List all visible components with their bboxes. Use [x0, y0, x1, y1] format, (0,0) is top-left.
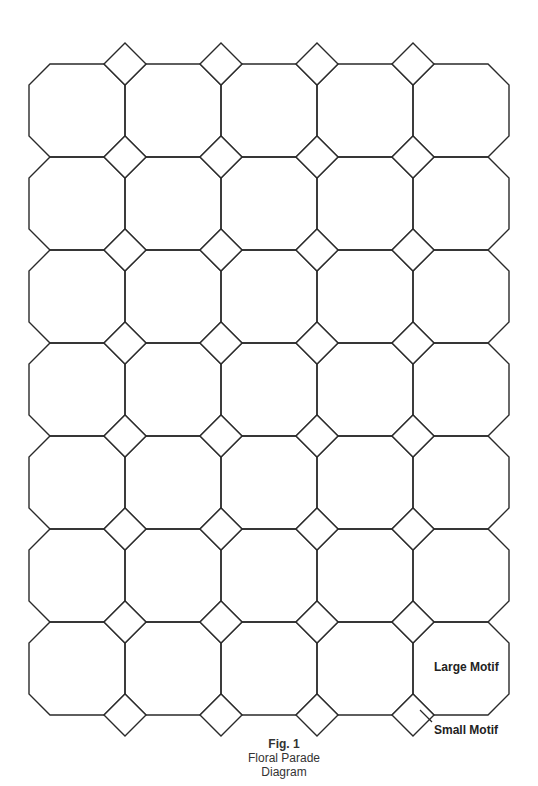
large-motif-octagon — [221, 343, 317, 436]
figure-title-line2: Diagram — [229, 765, 339, 779]
small-motif-diamond — [104, 694, 146, 736]
small-motif-diamond — [392, 694, 434, 736]
large-motif-grid — [29, 64, 509, 715]
small-motif-diamond — [200, 229, 242, 271]
large-motif-octagon — [413, 436, 509, 529]
small-motif-diamond — [104, 136, 146, 178]
large-motif-octagon — [29, 343, 125, 436]
small-motif-diamond — [104, 601, 146, 643]
large-motif-octagon — [29, 157, 125, 250]
small-motif-grid — [104, 43, 434, 736]
small-motif-diamond — [392, 43, 434, 85]
small-motif-diamond — [296, 43, 338, 85]
small-motif-diamond — [296, 322, 338, 364]
large-motif-octagon — [413, 64, 509, 157]
large-motif-octagon — [125, 64, 221, 157]
large-motif-octagon — [221, 529, 317, 622]
small-motif-diamond — [200, 415, 242, 457]
large-motif-octagon — [317, 343, 413, 436]
large-motif-octagon — [413, 157, 509, 250]
small-motif-diamond — [296, 229, 338, 271]
small-motif-diamond — [392, 322, 434, 364]
small-motif-diamond — [104, 322, 146, 364]
small-motif-diamond — [104, 43, 146, 85]
large-motif-octagon — [317, 622, 413, 715]
small-motif-diamond — [104, 508, 146, 550]
large-motif-octagon — [413, 343, 509, 436]
large-motif-octagon — [413, 529, 509, 622]
large-motif-octagon — [317, 64, 413, 157]
large-motif-octagon — [125, 157, 221, 250]
large-motif-octagon — [317, 529, 413, 622]
large-motif-octagon — [221, 64, 317, 157]
small-motif-diamond — [200, 694, 242, 736]
small-motif-diamond — [296, 415, 338, 457]
large-motif-octagon — [29, 250, 125, 343]
small-motif-diamond — [392, 508, 434, 550]
figure-title-line1: Floral Parade — [229, 751, 339, 765]
large-motif-octagon — [29, 436, 125, 529]
large-motif-octagon — [125, 436, 221, 529]
large-motif-octagon — [221, 622, 317, 715]
small-motif-diamond — [296, 601, 338, 643]
large-motif-octagon — [29, 529, 125, 622]
large-motif-octagon — [125, 343, 221, 436]
small-motif-diamond — [104, 415, 146, 457]
large-motif-octagon — [317, 157, 413, 250]
small-motif-diamond — [200, 322, 242, 364]
large-motif-octagon — [413, 250, 509, 343]
small-motif-diamond — [200, 136, 242, 178]
small-motif-label: Small Motif — [434, 723, 498, 737]
small-motif-diamond — [296, 508, 338, 550]
large-motif-octagon — [125, 622, 221, 715]
small-motif-diamond — [392, 229, 434, 271]
large-motif-label: Large Motif — [434, 660, 499, 674]
small-motif-diamond — [296, 694, 338, 736]
small-motif-diamond — [392, 601, 434, 643]
large-motif-octagon — [29, 622, 125, 715]
small-motif-diamond — [392, 136, 434, 178]
large-motif-octagon — [125, 250, 221, 343]
small-motif-diamond — [392, 415, 434, 457]
large-motif-octagon — [221, 436, 317, 529]
large-motif-octagon — [221, 157, 317, 250]
large-motif-octagon — [125, 529, 221, 622]
small-motif-diamond — [200, 508, 242, 550]
small-motif-diamond — [200, 43, 242, 85]
large-motif-octagon — [317, 250, 413, 343]
small-motif-diamond — [200, 601, 242, 643]
small-motif-diamond — [104, 229, 146, 271]
small-motif-diamond — [296, 136, 338, 178]
figure-caption: Fig. 1 Floral Parade Diagram — [229, 737, 339, 779]
large-motif-octagon — [29, 64, 125, 157]
figure-number: Fig. 1 — [229, 737, 339, 751]
large-motif-octagon — [221, 250, 317, 343]
large-motif-octagon — [317, 436, 413, 529]
